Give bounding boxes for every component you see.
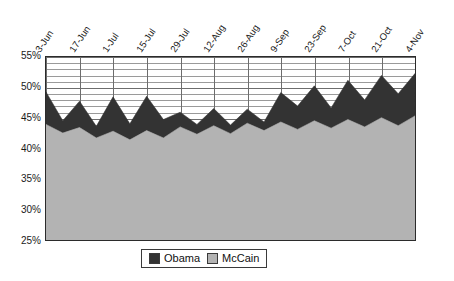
legend-swatch-mccain — [207, 253, 218, 264]
x-tick-label: 17-Jun — [67, 24, 92, 54]
x-tick-label: 4-Nov — [404, 27, 426, 54]
series-layer — [46, 57, 415, 240]
y-tick-label: 45% — [5, 113, 41, 123]
x-tick-label: 15-Jul — [135, 27, 158, 54]
x-tick-label: 1-Jul — [101, 31, 121, 54]
x-axis: 3-Jun17-Jun1-Jul15-Jul29-Jul12-Aug26-Aug… — [0, 0, 454, 56]
y-tick-label: 30% — [5, 205, 41, 215]
chart-legend: Obama McCain — [141, 249, 267, 268]
x-tick-label: 7-Oct — [336, 29, 357, 54]
x-tick-label: 29-Jul — [168, 27, 191, 54]
y-tick-label: 40% — [5, 144, 41, 154]
legend-swatch-obama — [149, 253, 160, 264]
x-tick-label: 3-Jun — [34, 29, 56, 54]
legend-label-mccain: McCain — [222, 253, 259, 264]
plot-clip — [46, 57, 415, 240]
legend-item-obama: Obama — [149, 253, 200, 264]
x-tick-label: 9-Sep — [269, 27, 291, 54]
y-tick-label: 50% — [5, 82, 41, 92]
x-tick-label: 23-Sep — [303, 23, 328, 54]
x-tick-label: 12-Aug — [202, 23, 227, 54]
x-tick-label: 21-Oct — [370, 25, 394, 54]
legend-label-obama: Obama — [164, 253, 200, 264]
plot-area — [45, 56, 416, 241]
poll-tracking-chart: 25%30%35%40%45%50%55% 3-Jun17-Jun1-Jul15… — [0, 0, 454, 281]
legend-item-mccain: McCain — [207, 253, 259, 264]
y-tick-label: 35% — [5, 174, 41, 184]
y-tick-label: 25% — [5, 236, 41, 246]
x-tick-label: 26-Aug — [236, 23, 261, 54]
